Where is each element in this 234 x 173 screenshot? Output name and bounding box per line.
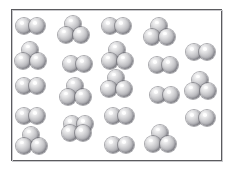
atom-sphere (199, 110, 215, 126)
atom-sphere (116, 81, 132, 97)
atom-sphere (29, 18, 45, 34)
atom-sphere (75, 89, 91, 105)
atom-sphere (15, 53, 31, 69)
atom-sphere (160, 136, 176, 152)
atom-sphere (162, 57, 178, 73)
atom-sphere (117, 53, 133, 69)
atom-sphere (163, 87, 179, 103)
atom-sphere (115, 18, 131, 34)
atom-sphere (200, 83, 216, 99)
atom-sphere (102, 53, 118, 69)
atom-sphere (145, 136, 161, 152)
atom-sphere (159, 29, 175, 45)
atom-sphere (73, 27, 89, 43)
atom-sphere (16, 138, 32, 154)
figure-canvas (0, 0, 234, 173)
atom-sphere (118, 108, 134, 124)
atom-sphere (60, 89, 76, 105)
atom-sphere (29, 108, 45, 124)
atom-sphere (118, 137, 134, 153)
atom-sphere (185, 83, 201, 99)
atom-sphere (75, 125, 91, 141)
atom-sphere (29, 78, 45, 94)
atom-sphere (31, 138, 47, 154)
atom-sphere (30, 53, 46, 69)
atom-sphere (58, 27, 74, 43)
atom-sphere (76, 56, 92, 72)
atom-sphere (199, 44, 215, 60)
atom-sphere (101, 81, 117, 97)
atom-sphere (144, 29, 160, 45)
